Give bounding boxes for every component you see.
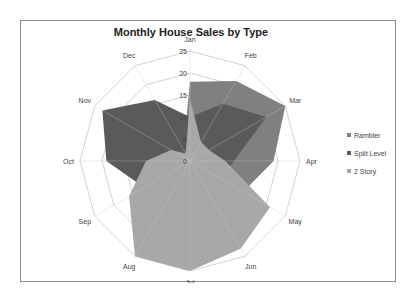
category-label-aug: Aug <box>123 263 136 271</box>
category-label-mar: Mar <box>289 97 302 104</box>
category-label-oct: Oct <box>63 158 74 165</box>
r-tick-label-0: 0 <box>183 158 187 165</box>
category-label-sep: Sep <box>79 218 92 226</box>
category-label-jan: Jan <box>184 36 195 43</box>
legend-item-rambler: Rambler <box>347 126 386 144</box>
legend-label: Split Level <box>354 150 386 157</box>
category-label-nov: Nov <box>79 97 92 104</box>
legend-label: 2 Story <box>354 168 376 175</box>
category-label-apr: Apr <box>306 158 318 166</box>
r-tick-label-10: 10 <box>179 114 187 121</box>
r-tick-label-20: 20 <box>179 70 187 77</box>
legend: RamblerSplit Level2 Story <box>347 126 386 180</box>
spoke-layer <box>80 51 300 271</box>
series-layer <box>102 81 285 271</box>
legend-item-2-story: 2 Story <box>347 162 386 180</box>
r-tick-label-25: 25 <box>179 48 187 55</box>
legend-item-split-level: Split Level <box>347 144 386 162</box>
legend-label: Rambler <box>354 132 380 139</box>
category-label-jun: Jun <box>245 263 256 270</box>
category-label-dec: Dec <box>123 52 136 59</box>
category-label-may: May <box>289 218 303 226</box>
legend-swatch <box>347 151 351 155</box>
chart-frame: Monthly House Sales by Type JanFebMarApr… <box>20 20 396 282</box>
category-label-feb: Feb <box>245 52 257 59</box>
r-tick-label-5: 5 <box>183 136 187 143</box>
radar-chart: JanFebMarAprMayJunJulAugSepOctNovDec0510… <box>21 21 397 283</box>
category-label-jul: Jul <box>186 279 195 283</box>
legend-swatch <box>347 169 351 173</box>
legend-swatch <box>347 133 351 137</box>
r-tick-label-15: 15 <box>179 92 187 99</box>
